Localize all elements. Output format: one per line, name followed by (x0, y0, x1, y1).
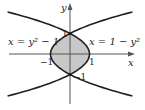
y-axis-label: y (60, 2, 67, 13)
intersection-point-top (68, 32, 71, 35)
tick-label-x-neg1: −1 (40, 57, 53, 67)
intersection-point-bottom (68, 73, 71, 76)
x-axis-arrow-icon (128, 52, 135, 57)
right-equation-label: x = 1 − y² (89, 36, 140, 47)
tick-label-x-1: 1 (89, 57, 95, 67)
parabola-region-figure: y x x = y² − 1 x = 1 − y² 1 −1 −1 1 (0, 0, 145, 110)
tick-label-y-1: 1 (62, 29, 68, 39)
left-equation-label: x = y² − 1 (8, 36, 59, 47)
x-axis-label: x (128, 57, 134, 68)
tick-label-y-neg1: −1 (73, 72, 86, 82)
y-axis-arrow-icon (68, 3, 73, 10)
